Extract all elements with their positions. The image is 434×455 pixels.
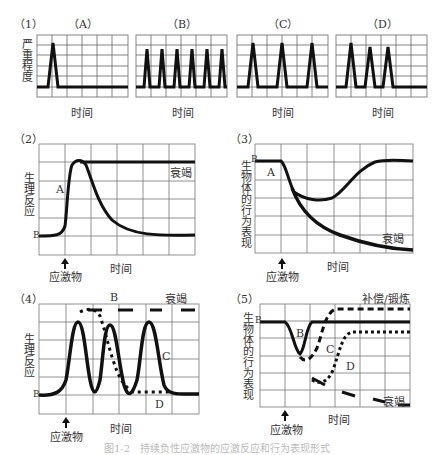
panel3-curve-a-label: A bbox=[267, 166, 275, 179]
panel1b-xlabel: 时间 bbox=[172, 104, 194, 120]
panel2-curve-a-label: A bbox=[56, 183, 64, 196]
panel4-ylabel: 生理反应 bbox=[20, 333, 36, 377]
arrow-up-icon bbox=[62, 417, 70, 423]
panel2-stimulus-label: 应激物 bbox=[49, 268, 82, 284]
panel2-xlabel: 时间 bbox=[110, 260, 132, 276]
panel1-curve-d bbox=[336, 43, 427, 87]
panel5-label: （5） bbox=[230, 290, 259, 306]
panel4-curve-c-label: C bbox=[162, 350, 170, 363]
panel5-xlabel: 时间 bbox=[328, 411, 350, 427]
panel5-compensation-label: 补偿/锻炼 bbox=[362, 290, 410, 306]
arrow-up-icon bbox=[281, 410, 289, 416]
panel5-curve-c bbox=[300, 309, 410, 360]
panel5-curve-d bbox=[312, 332, 410, 382]
panel2-ylabel: 生理反应 bbox=[20, 172, 36, 216]
panel2-baseline-label: B bbox=[33, 230, 40, 240]
panel1-ylabel: 严重程度 bbox=[18, 38, 34, 82]
arrow-up-icon bbox=[278, 258, 286, 264]
panel1d-xlabel: 时间 bbox=[372, 104, 394, 120]
panel3-ylabel: 生物体的行为表现 bbox=[237, 160, 253, 248]
panel5-ylabel: 生物体的行为表现 bbox=[239, 312, 255, 400]
panel5-curve-c-label: C bbox=[326, 343, 334, 356]
panel2-label: （2） bbox=[14, 130, 43, 146]
panel1c-label: （C） bbox=[268, 15, 298, 31]
panel4-exhaustion-label: 衰竭 bbox=[165, 290, 187, 306]
panel5-stimulus-label: 应激物 bbox=[270, 421, 303, 437]
panel1-curve-a bbox=[37, 43, 128, 87]
panel5-grid bbox=[260, 304, 410, 407]
panel3-label: （3） bbox=[230, 130, 259, 146]
panel1a-label: （A） bbox=[68, 15, 98, 31]
panel1-label: （1） bbox=[14, 15, 43, 31]
panel5-curve-b-label: B bbox=[296, 327, 304, 340]
panel3-xlabel: 时间 bbox=[327, 258, 349, 274]
panel5-baseline-label: B bbox=[255, 315, 262, 325]
panel3-baseline-label: B bbox=[251, 154, 258, 164]
panel4-baseline-label: B bbox=[33, 389, 40, 399]
panel1-curve-c bbox=[237, 43, 328, 87]
panel4-label: （4） bbox=[14, 290, 43, 306]
figure-caption: 图1-2 持续负性应激物的应激反应和行为表现形式 bbox=[0, 440, 434, 455]
panel5-exhaustion-label: 衰竭 bbox=[383, 393, 405, 409]
panel1c-xlabel: 时间 bbox=[272, 104, 294, 120]
arrow-up-icon bbox=[61, 258, 69, 264]
panel4-curve-b-label: B bbox=[110, 291, 118, 304]
panel1d-label: （D） bbox=[367, 15, 398, 31]
panel1a-xlabel: 时间 bbox=[71, 104, 93, 120]
panel4-curve-d-label: D bbox=[155, 398, 164, 411]
panel3-stimulus-label: 应激物 bbox=[266, 268, 299, 284]
panel5-curve-d-label: D bbox=[346, 360, 355, 373]
panel3-exhaustion-label: 衰竭 bbox=[382, 230, 404, 246]
panel1b-label: （B） bbox=[167, 15, 197, 31]
panel4-xlabel: 时间 bbox=[110, 420, 132, 436]
panel2-exhaustion-label: 衰竭 bbox=[170, 164, 192, 180]
